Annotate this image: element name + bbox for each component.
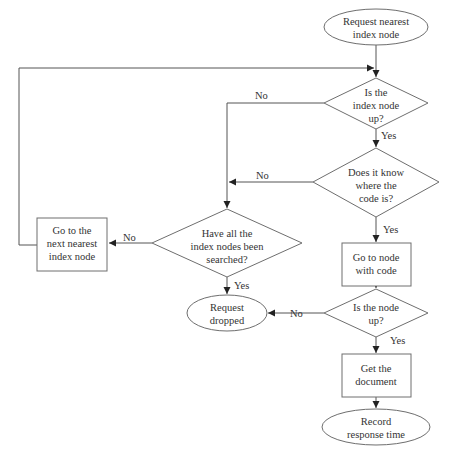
edge-index-up-no [227, 103, 324, 208]
node-text: with code [355, 265, 396, 276]
node-text: up? [368, 315, 384, 326]
node-text: index node [353, 100, 400, 111]
edge-label-index-up-yes: Yes [381, 130, 396, 141]
node-text: Go to node [353, 252, 400, 263]
edge-label-all-searched-yes: Yes [234, 280, 249, 291]
node-does-it-know-code: Does it know where the code is? [313, 148, 439, 217]
node-request-nearest-index: Request nearest index node [324, 9, 428, 45]
node-go-to-next-nearest-index-node: Go to the next nearest index node [37, 218, 107, 271]
node-text: Is the [364, 87, 387, 98]
edge-label-node-up-no: No [290, 308, 303, 319]
node-text: up? [368, 113, 384, 124]
node-text: dropped [210, 315, 245, 326]
node-is-index-node-up: Is the index node up? [324, 78, 428, 129]
node-text: index nodes been [191, 241, 265, 252]
node-request-dropped: Request dropped [187, 295, 267, 331]
node-text: Get the [361, 363, 392, 374]
node-text: Go to the [52, 225, 91, 236]
edge-label-know-code-yes: Yes [383, 224, 398, 235]
node-text: response time [347, 429, 405, 440]
node-text: Request [210, 302, 244, 313]
node-text: Request nearest [343, 16, 409, 27]
decision-shape [324, 289, 428, 337]
node-get-the-document: Get the document [342, 354, 411, 397]
node-record-response-time: Record response time [322, 409, 430, 445]
node-text: Record [361, 416, 392, 427]
edge-label-node-up-yes: Yes [390, 335, 405, 346]
node-text: index node [353, 29, 400, 40]
edge-label-index-up-no: No [255, 90, 268, 101]
node-text: Have all the [202, 228, 253, 239]
node-text: index node [49, 251, 96, 262]
node-text: next nearest [47, 238, 98, 249]
node-is-node-up: Is the node up? [324, 289, 428, 337]
flowchart-canvas: No Yes No Yes No Yes No Yes Request near… [0, 0, 458, 461]
node-text: code is? [359, 193, 393, 204]
edge-label-all-searched-no: No [123, 232, 136, 243]
node-text: Is the node [353, 302, 399, 313]
node-have-all-index-nodes-been-searched: Have all the index nodes been searched? [152, 209, 302, 277]
node-text: Does it know [348, 167, 404, 178]
node-go-to-node-with-code: Go to node with code [342, 243, 411, 286]
node-text: where the [355, 180, 396, 191]
node-text: searched? [206, 254, 248, 265]
node-text: document [355, 376, 396, 387]
edge-label-know-code-no: No [256, 170, 269, 181]
